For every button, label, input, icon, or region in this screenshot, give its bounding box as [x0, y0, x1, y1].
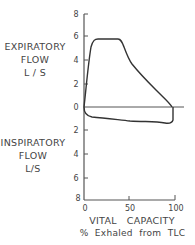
y-tick-6-bottom: 6	[73, 174, 78, 183]
y-tick-8-bottom: 8	[75, 194, 80, 203]
x-tick-100: 100	[168, 204, 183, 213]
expiratory-curve	[84, 39, 172, 107]
x-axis-title: VITAL CAPACITY	[84, 214, 180, 227]
x-axis-subtitle: % Exhaled from TLC	[70, 227, 195, 240]
y-tick-2-top: 2	[73, 80, 78, 89]
y-tick-4-top: 4	[73, 56, 78, 65]
flow-volume-chart: 8 6 4 2 0 2 4 6 8 0 50 100	[0, 0, 195, 245]
y-tick-2-bottom: 2	[73, 126, 78, 135]
x-tick-50: 50	[125, 204, 135, 213]
x-tick-0: 0	[82, 204, 87, 213]
y-tick-8-top: 8	[73, 10, 78, 19]
inspiratory-curve	[84, 107, 173, 123]
y-tick-4-bottom: 4	[73, 150, 78, 159]
y-tick-6-top: 6	[73, 32, 78, 41]
y-tick-0: 0	[73, 103, 78, 112]
